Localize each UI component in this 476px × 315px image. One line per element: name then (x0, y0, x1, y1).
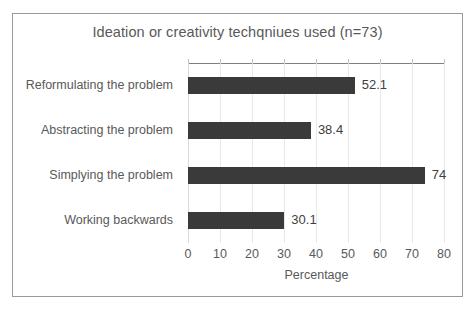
tick-label-0: 0 (185, 247, 192, 261)
bar-value-0: 52.1 (362, 76, 387, 94)
bar-value-1: 38.4 (318, 121, 343, 139)
plot-area: 52.1 38.4 74 30.1 (188, 63, 444, 243)
tick-label-30: 30 (277, 247, 291, 261)
bar-row: 74 (188, 153, 444, 198)
gridline-80 (444, 63, 445, 243)
chart-title: Ideation or creativity techqniues used (… (13, 24, 462, 40)
bar-row: 52.1 (188, 63, 444, 108)
tickmark-80 (444, 59, 445, 63)
chart-container: Ideation or creativity techqniues used (… (12, 13, 463, 297)
category-label-2: Simplying the problem (49, 153, 173, 198)
bar-value-2: 74 (432, 166, 446, 184)
x-axis-title: Percentage (188, 268, 445, 282)
bar-3[interactable] (188, 212, 284, 229)
category-label-1: Abstracting the problem (41, 108, 173, 153)
tick-label-50: 50 (341, 247, 355, 261)
tick-label-70: 70 (405, 247, 419, 261)
category-axis-labels: Reformulating the problem Abstracting th… (13, 63, 181, 243)
bar-row: 38.4 (188, 108, 444, 153)
bar-row: 30.1 (188, 198, 444, 243)
tick-label-10: 10 (213, 247, 227, 261)
tick-label-60: 60 (373, 247, 387, 261)
bar-2[interactable] (188, 167, 425, 184)
tick-label-80: 80 (437, 247, 451, 261)
bar-value-3: 30.1 (291, 211, 316, 229)
category-label-3: Working backwards (64, 198, 173, 243)
bar-0[interactable] (188, 77, 355, 94)
bar-1[interactable] (188, 122, 311, 139)
tick-label-40: 40 (309, 247, 323, 261)
category-label-0: Reformulating the problem (26, 63, 173, 108)
x-axis-tick-labels: 0 10 20 30 40 50 60 70 80 (188, 247, 444, 267)
tick-label-20: 20 (245, 247, 259, 261)
